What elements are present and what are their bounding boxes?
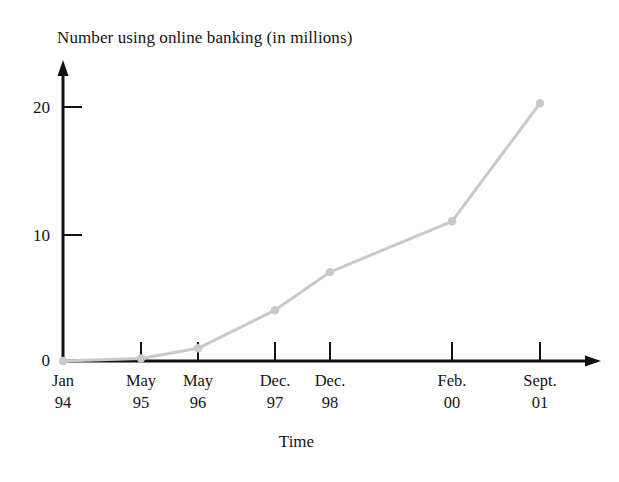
x-tick-label-line1: May xyxy=(156,370,240,392)
x-tick-label-may-96: May 96 xyxy=(156,370,240,414)
x-tick-label-line1: Sept. xyxy=(498,370,582,392)
x-tick-label-line2: 00 xyxy=(410,392,494,414)
x-tick-label-line2: 94 xyxy=(21,392,105,414)
series-markers xyxy=(59,99,544,365)
x-axis-title: Time xyxy=(0,432,619,452)
x-tick-label-dec-98: Dec. 98 xyxy=(288,370,372,414)
x-tick-label-jan-94: Jan 94 xyxy=(21,370,105,414)
x-tick-label-feb-00: Feb. 00 xyxy=(410,370,494,414)
y-axis-arrowhead xyxy=(58,60,69,76)
data-point-feb-00 xyxy=(448,217,456,225)
data-point-may-96 xyxy=(194,344,202,352)
x-tick-label-line2: 98 xyxy=(288,392,372,414)
x-tick-label-line1: Feb. xyxy=(410,370,494,392)
data-point-dec-97 xyxy=(271,306,279,314)
data-point-sept-01 xyxy=(536,99,544,107)
series-line-online-banking xyxy=(63,103,540,361)
x-tick-label-line1: Jan xyxy=(21,370,105,392)
x-tick-label-line2: 96 xyxy=(156,392,240,414)
data-point-jan-94 xyxy=(59,357,67,365)
x-tick-label-sept-01: Sept. 01 xyxy=(498,370,582,414)
x-axis-arrowhead xyxy=(585,356,601,367)
data-point-may-95 xyxy=(137,354,145,362)
x-tick-label-line1: Dec. xyxy=(288,370,372,392)
x-axis-title-text: Time xyxy=(279,432,314,451)
x-tick-label-line2: 01 xyxy=(498,392,582,414)
data-point-dec-98 xyxy=(326,268,334,276)
chart-figure: Number using online banking (in millions… xyxy=(0,0,619,482)
